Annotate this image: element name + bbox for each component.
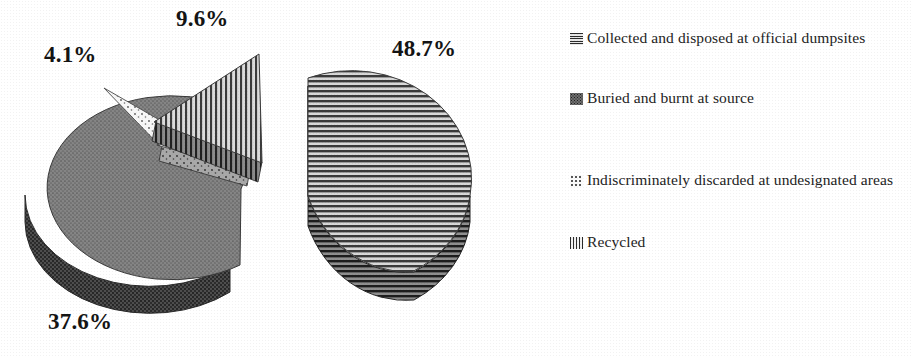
legend-label-buried: Buried and burnt at source xyxy=(587,88,754,107)
dark-dots-swatch-icon xyxy=(570,93,583,105)
vertical-stripes-swatch-icon xyxy=(570,237,583,249)
legend-label-collected: Collected and disposed at official dumps… xyxy=(587,28,865,47)
light-dots-swatch-icon xyxy=(570,175,583,187)
data-label-recycled: 9.6% xyxy=(176,6,229,32)
legend-item-collected: Collected and disposed at official dumps… xyxy=(570,28,900,47)
horizontal-stripes-swatch-icon xyxy=(570,33,583,45)
legend-item-indiscriminate: Indiscriminately discarded at undesignat… xyxy=(570,170,900,189)
legend-label-recycled: Recycled xyxy=(587,232,645,251)
chart-legend: Collected and disposed at official dumps… xyxy=(556,0,913,357)
pie-chart-figure: 9.6% 4.1% 37.6% 48.7% xyxy=(0,0,550,357)
data-label-indiscriminate: 4.1% xyxy=(44,42,97,68)
data-label-collected: 48.7% xyxy=(392,36,456,62)
data-label-buried: 37.6% xyxy=(48,309,112,335)
legend-item-recycled: Recycled xyxy=(570,232,900,251)
legend-label-indiscriminate: Indiscriminately discarded at undesignat… xyxy=(587,170,893,189)
pie-slice-collected xyxy=(308,71,472,301)
legend-item-buried: Buried and burnt at source xyxy=(570,88,900,107)
